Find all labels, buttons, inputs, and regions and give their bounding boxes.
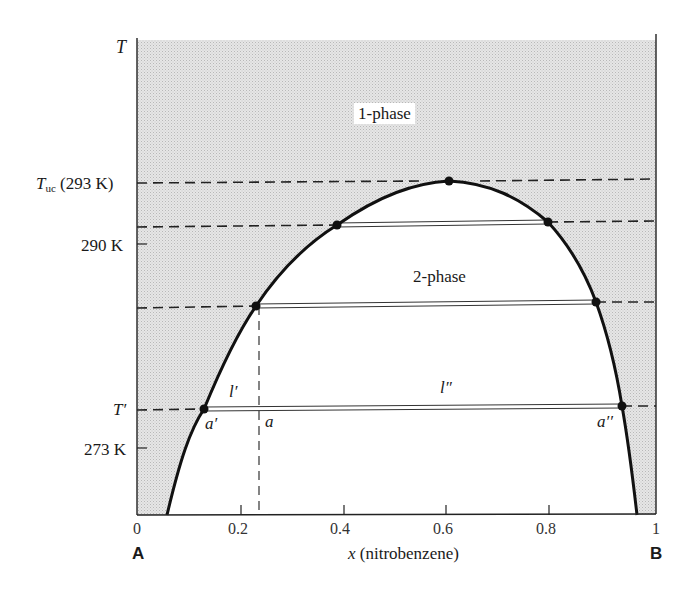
tick-290k: 290 K xyxy=(81,237,123,254)
l-double-prime-label: l″ xyxy=(440,379,452,396)
x-tick-0: 0 xyxy=(133,521,141,537)
a-prime-label: a′ xyxy=(205,415,217,432)
x-variable-name: (nitrobenzene) xyxy=(356,544,459,563)
x-tick-0-4: 0.4 xyxy=(330,521,350,537)
tuc-value: (293 K) xyxy=(56,174,114,193)
a-label: a xyxy=(265,413,274,430)
tuc-subscript: uc xyxy=(45,182,55,194)
l-prime-label: l′ xyxy=(229,383,237,400)
x-variable: x xyxy=(348,544,356,563)
tuc-label: Tuc (293 K) xyxy=(36,175,113,194)
component-a-label: A xyxy=(132,545,144,562)
phase-diagram xyxy=(0,0,697,596)
point-a-prime xyxy=(200,405,209,414)
point-a-double-prime xyxy=(618,402,627,411)
y-axis-title: T xyxy=(116,38,126,56)
two-phase-label: 2-phase xyxy=(413,268,466,285)
one-phase-label: 1-phase xyxy=(354,103,415,124)
tick-tprime: T′ xyxy=(113,401,126,418)
a-double-prime-label: a′′ xyxy=(597,413,613,430)
component-b-label: B xyxy=(650,545,662,562)
x-tick-1: 1 xyxy=(652,521,660,537)
tick-273k: 273 K xyxy=(84,441,126,458)
critical-point xyxy=(445,177,454,186)
x-tick-0-2: 0.2 xyxy=(228,521,248,537)
x-axis-title: x (nitrobenzene) xyxy=(348,545,459,562)
x-tick-0-8: 0.8 xyxy=(536,521,556,537)
x-tick-0-6: 0.6 xyxy=(433,521,453,537)
